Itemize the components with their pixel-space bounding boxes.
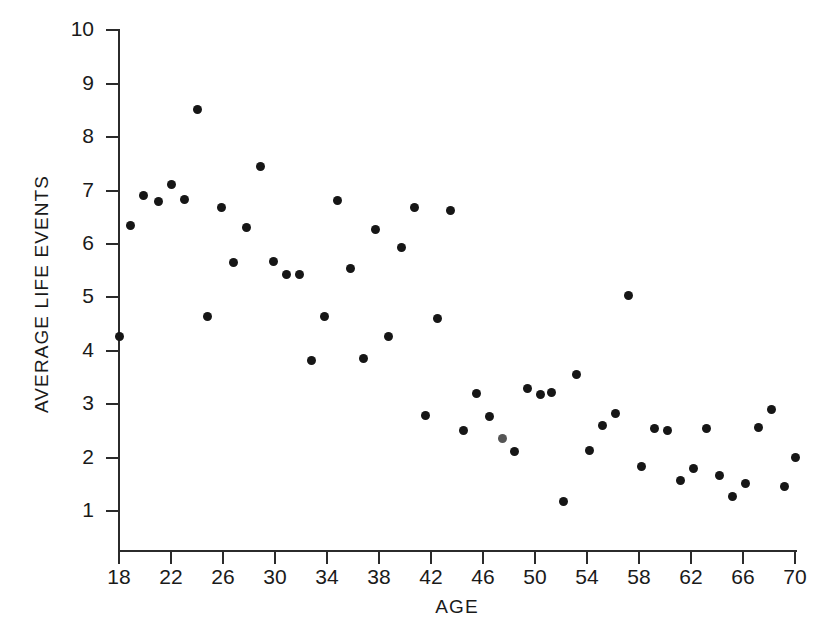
data-point xyxy=(472,389,481,398)
data-point xyxy=(154,197,163,206)
data-point xyxy=(167,180,176,189)
data-point xyxy=(754,423,763,432)
x-tick-mark xyxy=(742,552,744,564)
x-tick-label: 26 xyxy=(197,566,249,588)
x-tick-label: 18 xyxy=(93,566,145,588)
x-tick-label: 50 xyxy=(509,566,561,588)
x-tick-mark xyxy=(430,552,432,564)
data-point xyxy=(333,196,342,205)
y-tick-mark xyxy=(106,510,119,512)
data-point xyxy=(193,105,202,114)
y-tick-mark xyxy=(106,296,119,298)
y-tick-label: 7 xyxy=(46,179,94,201)
y-tick-label: 2 xyxy=(46,446,94,468)
x-tick-mark xyxy=(534,552,536,564)
data-point xyxy=(371,225,380,234)
data-point xyxy=(269,257,278,266)
x-tick-mark xyxy=(586,552,588,564)
data-point xyxy=(126,221,135,230)
data-point xyxy=(523,384,532,393)
data-point xyxy=(689,464,698,473)
y-tick-mark xyxy=(106,350,119,352)
data-point xyxy=(229,258,238,267)
data-point xyxy=(702,424,711,433)
data-point xyxy=(676,476,685,485)
data-point xyxy=(242,223,251,232)
x-tick-label: 42 xyxy=(405,566,457,588)
scatter-plot-figure: AVERAGE LIFE EVENTS AGE 12345678910 1822… xyxy=(0,0,837,643)
y-tick-label: 8 xyxy=(46,125,94,147)
x-tick-label: 30 xyxy=(249,566,301,588)
y-tick-mark xyxy=(106,83,119,85)
data-point xyxy=(295,270,304,279)
data-point xyxy=(459,426,468,435)
x-axis-title: AGE xyxy=(119,596,795,618)
x-tick-label: 54 xyxy=(561,566,613,588)
x-tick-mark xyxy=(118,552,120,564)
x-tick-mark xyxy=(638,552,640,564)
y-tick-mark xyxy=(106,457,119,459)
data-point xyxy=(663,426,672,435)
data-point xyxy=(510,447,519,456)
y-tick-mark xyxy=(106,29,119,31)
data-point xyxy=(791,453,800,462)
x-tick-label: 62 xyxy=(665,566,717,588)
data-point xyxy=(346,264,355,273)
y-axis-line xyxy=(118,29,120,552)
data-point xyxy=(384,332,393,341)
data-point xyxy=(203,312,212,321)
y-tick-label: 9 xyxy=(46,72,94,94)
x-tick-mark xyxy=(378,552,380,564)
data-point xyxy=(485,412,494,421)
x-tick-mark xyxy=(690,552,692,564)
x-tick-label: 22 xyxy=(145,566,197,588)
data-point xyxy=(728,492,737,501)
x-tick-label: 58 xyxy=(613,566,665,588)
data-point xyxy=(217,203,226,212)
x-tick-mark xyxy=(274,552,276,564)
x-tick-label: 66 xyxy=(717,566,769,588)
x-tick-mark xyxy=(794,552,796,564)
x-tick-label: 46 xyxy=(457,566,509,588)
data-point xyxy=(611,409,620,418)
data-point xyxy=(650,424,659,433)
x-tick-mark xyxy=(326,552,328,564)
data-point xyxy=(359,354,368,363)
x-tick-mark xyxy=(482,552,484,564)
data-point xyxy=(585,446,594,455)
x-axis-line xyxy=(118,550,797,552)
y-tick-mark xyxy=(106,136,119,138)
data-point xyxy=(397,243,406,252)
data-point xyxy=(624,291,633,300)
y-tick-mark xyxy=(106,403,119,405)
x-tick-label: 38 xyxy=(353,566,405,588)
data-point xyxy=(741,479,750,488)
x-tick-label: 70 xyxy=(769,566,821,588)
y-tick-label: 10 xyxy=(46,18,94,40)
data-point xyxy=(536,390,545,399)
data-point xyxy=(598,421,607,430)
data-point xyxy=(307,356,316,365)
y-tick-label: 3 xyxy=(46,392,94,414)
data-point xyxy=(498,434,507,443)
data-point xyxy=(572,370,581,379)
data-point xyxy=(282,270,291,279)
data-point xyxy=(715,471,724,480)
data-point xyxy=(139,191,148,200)
data-point xyxy=(115,332,124,341)
y-tick-mark xyxy=(106,190,119,192)
data-point xyxy=(256,162,265,171)
data-point xyxy=(180,195,189,204)
data-point xyxy=(421,411,430,420)
y-tick-label: 5 xyxy=(46,285,94,307)
data-point xyxy=(559,497,568,506)
data-point xyxy=(767,405,776,414)
x-tick-mark xyxy=(170,552,172,564)
data-point xyxy=(637,462,646,471)
data-point xyxy=(410,203,419,212)
data-point xyxy=(446,206,455,215)
y-tick-label: 6 xyxy=(46,232,94,254)
y-tick-mark xyxy=(106,243,119,245)
x-tick-mark xyxy=(222,552,224,564)
y-tick-label: 4 xyxy=(46,339,94,361)
